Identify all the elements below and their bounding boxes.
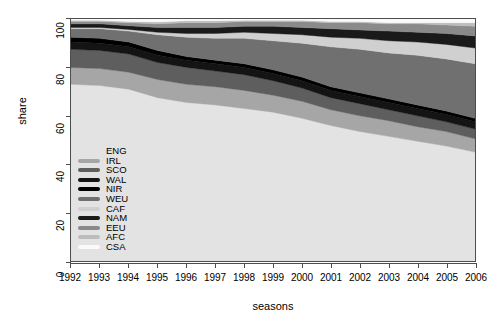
x-axis-tick — [128, 263, 129, 268]
legend-key-swatch — [78, 159, 100, 163]
x-axis-title: seasons — [70, 300, 476, 312]
legend-key-swatch — [78, 168, 100, 172]
x-axis — [70, 263, 476, 272]
plot-area — [70, 18, 476, 262]
x-axis-tick — [273, 263, 274, 268]
x-axis-tick — [157, 263, 158, 268]
y-axis-title: share — [16, 71, 28, 151]
y-axis-tick-label: 20 — [55, 213, 66, 239]
x-axis-tick — [389, 263, 390, 268]
x-axis-tick — [360, 263, 361, 268]
x-axis-tick — [302, 263, 303, 268]
y-axis-tick-label: 80 — [55, 66, 66, 92]
x-axis-tick — [447, 263, 448, 268]
x-axis-tick — [476, 263, 477, 268]
x-axis-tick — [99, 263, 100, 268]
legend-key-swatch — [78, 226, 100, 230]
legend-item-label: CSA — [106, 241, 126, 252]
x-axis-tick — [186, 263, 187, 268]
stacked-area-series — [71, 19, 475, 261]
x-axis-tick — [331, 263, 332, 268]
y-axis-tick-label: 100 — [55, 18, 66, 44]
legend-key-swatch — [78, 207, 100, 211]
legend-key-swatch — [78, 178, 100, 182]
x-axis-tick-label: 2006 — [456, 272, 496, 283]
x-axis-tick — [244, 263, 245, 268]
legend-key-swatch — [78, 216, 100, 220]
legend-key-swatch — [78, 197, 100, 201]
chart-root: share 020406080100 seasons ENGIRLSCOWALN… — [0, 0, 499, 322]
y-axis-tick-label: 40 — [55, 164, 66, 190]
x-axis-tick — [418, 263, 419, 268]
legend-key-swatch — [78, 235, 100, 239]
legend-key-swatch — [78, 187, 100, 191]
y-axis-tick-label: 60 — [55, 115, 66, 141]
legend-key-swatch — [78, 245, 100, 249]
x-axis-tick — [70, 263, 71, 268]
x-axis-tick — [215, 263, 216, 268]
